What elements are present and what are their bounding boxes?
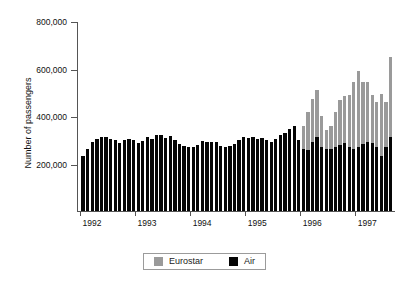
bar-segment-air <box>109 139 112 211</box>
bar-segment-air <box>325 149 328 211</box>
bar <box>311 21 314 211</box>
bar-segment-air <box>137 143 140 211</box>
bar <box>384 21 387 211</box>
bar-segment-air <box>95 139 98 211</box>
bar <box>348 21 351 211</box>
bar-segment-air <box>348 147 351 211</box>
bar-segment-air <box>210 142 213 211</box>
bar-segment-eurostar <box>311 99 314 142</box>
bar-segment-air <box>228 146 231 211</box>
bar-segment-eurostar <box>366 82 369 141</box>
bar-segment-eurostar <box>384 102 387 148</box>
bar-segment-air <box>251 137 254 211</box>
y-tick-label: 800,000 <box>36 17 67 27</box>
bar-segment-air <box>150 139 153 211</box>
legend-label-air: Air <box>244 256 255 266</box>
bar <box>366 21 369 211</box>
bar <box>361 21 364 211</box>
bar-segment-air <box>256 139 259 211</box>
bar-segment-air <box>169 136 172 211</box>
bar-segment-air <box>201 141 204 211</box>
bar <box>242 21 245 211</box>
bar-segment-air <box>146 137 149 211</box>
bar-segment-air <box>182 146 185 211</box>
bar-segment-air <box>302 149 305 211</box>
bar <box>81 21 84 211</box>
bar <box>274 21 277 211</box>
plot-area: 200,000400,000600,000800,000 19921993199… <box>77 22 395 212</box>
bar-segment-air <box>132 140 135 211</box>
x-tick-label: 1995 <box>248 218 267 228</box>
bar <box>352 21 355 211</box>
bar-segment-air <box>384 147 387 211</box>
bar <box>279 21 282 211</box>
bar-segment-air <box>260 138 263 211</box>
bar <box>334 21 337 211</box>
bar <box>182 21 185 211</box>
bar <box>100 21 103 211</box>
bar-segment-air <box>224 147 227 211</box>
bar <box>357 21 360 211</box>
bar <box>233 21 236 211</box>
bar <box>146 21 149 211</box>
bar <box>86 21 89 211</box>
bar-segment-air <box>159 135 162 211</box>
bar <box>95 21 98 211</box>
bar <box>150 21 153 211</box>
bar <box>118 21 121 211</box>
bar-segment-air <box>366 142 369 211</box>
bar <box>302 21 305 211</box>
bar-series-layer <box>78 22 395 211</box>
bar <box>251 21 254 211</box>
bar <box>132 21 135 211</box>
bar <box>306 21 309 211</box>
bar-segment-air <box>274 139 277 211</box>
bar-segment-eurostar <box>361 82 364 144</box>
bar <box>187 21 190 211</box>
bar <box>137 21 140 211</box>
bar <box>325 21 328 211</box>
bar-segment-air <box>306 150 309 211</box>
y-tick-label: 400,000 <box>36 112 67 122</box>
bar <box>256 21 259 211</box>
bar <box>228 21 231 211</box>
bar-segment-air <box>357 147 360 211</box>
bar-segment-eurostar <box>306 112 309 150</box>
bar-segment-eurostar <box>338 100 341 145</box>
bar-segment-air <box>311 142 314 211</box>
bar-segment-air <box>270 142 273 211</box>
bar-segment-air <box>352 149 355 211</box>
bar-segment-air <box>118 143 121 211</box>
bar-segment-eurostar <box>343 96 346 144</box>
bar-segment-air <box>91 142 94 211</box>
bar-segment-air <box>233 144 236 211</box>
bar <box>141 21 144 211</box>
bar <box>123 21 126 211</box>
x-tick <box>355 211 356 216</box>
bar <box>173 21 176 211</box>
y-tick: 200,000 <box>71 165 78 166</box>
bar-segment-eurostar <box>329 126 332 149</box>
bar-segment-air <box>329 149 332 211</box>
bar <box>114 21 117 211</box>
bar <box>265 21 268 211</box>
bar <box>109 21 112 211</box>
bar-segment-air <box>265 140 268 211</box>
bar-segment-eurostar <box>375 102 378 147</box>
bar-segment-air <box>343 143 346 211</box>
bar-segment-air <box>334 147 337 211</box>
bar <box>260 21 263 211</box>
bar <box>205 21 208 211</box>
bar <box>196 21 199 211</box>
bar-segment-air <box>123 140 126 211</box>
x-tick <box>80 211 81 216</box>
chart-legend: Eurostar Air <box>143 253 266 270</box>
air-swatch <box>229 257 238 266</box>
bar <box>224 21 227 211</box>
bar <box>169 21 172 211</box>
bar <box>315 21 318 211</box>
bar <box>104 21 107 211</box>
bar-segment-eurostar <box>348 95 351 147</box>
bar <box>155 21 158 211</box>
bar-segment-air <box>196 145 199 211</box>
